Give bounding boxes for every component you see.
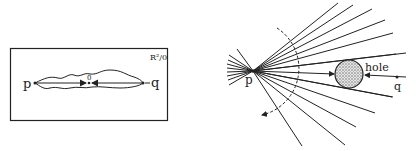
space-label: R²/0: [150, 53, 167, 62]
point-p: [34, 82, 37, 85]
origin-point: [88, 82, 91, 85]
point-p-label: p: [23, 76, 31, 91]
diagram-canvas: R²/0 0 p q: [0, 0, 416, 151]
hole-disk: [335, 60, 363, 88]
ray-q-to-hole: [365, 75, 406, 77]
punctured-plane-frame: [11, 49, 168, 121]
point-p-label-right: p: [245, 73, 253, 87]
right-panel: [227, 3, 406, 146]
origin-label: 0: [87, 74, 91, 82]
point-q-label-right: q: [394, 80, 401, 93]
point-q: [142, 82, 145, 85]
point-q-label: q: [151, 75, 159, 90]
left-panel: R²/0 0 p q: [11, 49, 168, 121]
hole-label: hole: [365, 61, 389, 74]
point-q: [396, 76, 399, 79]
